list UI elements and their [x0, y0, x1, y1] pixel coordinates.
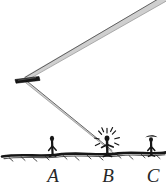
incident-ray [24, 0, 166, 80]
diagram-canvas [0, 0, 166, 189]
ray-group [24, 0, 166, 154]
observer-label-b: B [97, 166, 119, 185]
observer-label-c: C [142, 166, 164, 185]
observer-label-a: A [42, 166, 64, 185]
reflection-diagram: A B C [0, 0, 166, 189]
ground [2, 152, 166, 161]
observer-b[interactable] [95, 128, 120, 157]
reflected-ray [24, 79, 115, 154]
observer-a[interactable] [49, 136, 57, 157]
